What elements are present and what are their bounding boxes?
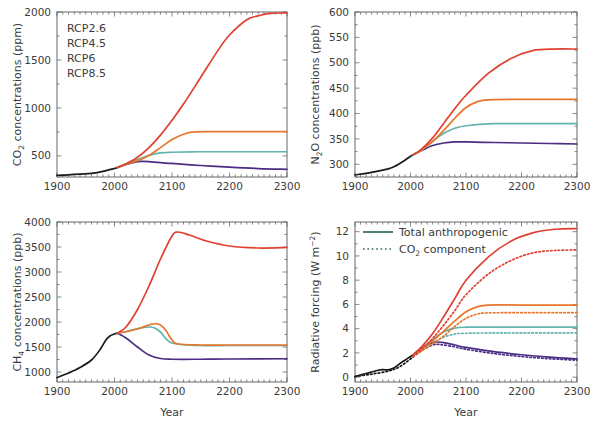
- series-line: [413, 124, 577, 155]
- x-tick-label: 1900: [44, 385, 71, 397]
- x-tick-label: 2100: [159, 180, 186, 192]
- y-tick-label: 600: [329, 6, 349, 18]
- legend-item-rcp6: RCP6: [67, 52, 95, 65]
- y-tick-label: 4: [342, 322, 349, 334]
- y-tick-label: 350: [329, 133, 349, 145]
- x-tick-label: 1900: [44, 180, 71, 192]
- series-line: [117, 327, 287, 346]
- series-line: [355, 355, 413, 377]
- y-tick-label: 450: [329, 82, 349, 94]
- x-tick-label: 2300: [274, 180, 301, 192]
- x-axis-label-rf: Year: [453, 406, 478, 419]
- y-tick-label: 6: [342, 298, 349, 310]
- rcp-scenarios-figure: 19002000210022002300500100015002000CO2 c…: [0, 0, 595, 423]
- series-line: [117, 161, 287, 169]
- series-line: [355, 155, 413, 175]
- x-tick-label: 2200: [508, 385, 535, 397]
- x-tick-label: 1900: [342, 385, 369, 397]
- y-axis-label-rf: Radiative forcing (W m−2): [308, 231, 322, 372]
- series-line: [117, 324, 287, 345]
- x-tick-label: 2200: [508, 180, 535, 192]
- y-tick-label: 0: [342, 371, 349, 383]
- x-tick-label: 2100: [453, 180, 480, 192]
- y-tick-label: 4000: [24, 216, 51, 228]
- series-line: [413, 99, 577, 154]
- series-group-n2o: [355, 49, 577, 175]
- x-tick-label: 2100: [453, 385, 480, 397]
- y-tick-label: 2000: [24, 316, 51, 328]
- y-tick-label: 300: [329, 158, 349, 170]
- legend-item-rcp4-5: RCP4.5: [67, 37, 106, 50]
- panel-co2: 19002000210022002300500100015002000CO2 c…: [11, 6, 300, 192]
- y-tick-label: 1500: [24, 54, 51, 66]
- y-tick-label: 2000: [24, 6, 51, 18]
- series-line: [413, 49, 577, 155]
- legend-label-co2-component: CO2 component: [399, 243, 487, 258]
- ticks-ch4: [57, 222, 287, 382]
- x-tick-label: 2300: [274, 385, 301, 397]
- legend-forcing: Total anthropogenicCO2 component: [363, 226, 508, 258]
- y-tick-label: 2500: [24, 291, 51, 303]
- series-line: [413, 142, 577, 155]
- y-tick-label: 1000: [24, 102, 51, 114]
- x-tick-label: 2000: [101, 180, 128, 192]
- plot-frame-ch4: [57, 222, 287, 382]
- y-axis-label-ch4: CH4 concentrations (ppb): [11, 232, 26, 371]
- legend-scenarios: RCP2.6RCP4.5RCP6RCP8.5: [67, 22, 106, 80]
- y-axis-label-n2o: N2O concentrations (ppb): [309, 24, 324, 164]
- y-tick-label: 1000: [24, 366, 51, 378]
- panel-ch4: 1900200021002200230010001500200025003000…: [11, 216, 300, 419]
- x-tick-label: 2200: [216, 180, 243, 192]
- legend-item-rcp8-5: RCP8.5: [67, 67, 106, 80]
- x-tick-label: 2300: [564, 180, 591, 192]
- legend-item-rcp2-6: RCP2.6: [67, 22, 106, 35]
- y-tick-label: 2: [342, 347, 349, 359]
- legend-label-total-anthropogenic: Total anthropogenic: [398, 226, 508, 239]
- figure-canvas: 19002000210022002300500100015002000CO2 c…: [0, 0, 595, 423]
- y-tick-label: 3500: [24, 241, 51, 253]
- y-tick-label: 1500: [24, 341, 51, 353]
- series-line: [413, 313, 577, 357]
- y-axis-label-co2: CO2 concentrations (ppm): [11, 23, 26, 166]
- series-line: [117, 13, 287, 168]
- y-tick-label: 10: [336, 250, 349, 262]
- x-axis-label-ch4: Year: [159, 406, 184, 419]
- x-tick-label: 2300: [564, 385, 591, 397]
- x-tick-label: 2000: [397, 385, 424, 397]
- x-tick-label: 2100: [159, 385, 186, 397]
- series-group-ch4: [57, 232, 287, 378]
- x-tick-label: 2000: [101, 385, 128, 397]
- y-tick-label: 500: [329, 56, 349, 68]
- y-tick-label: 3000: [24, 266, 51, 278]
- y-tick-label: 12: [336, 225, 349, 237]
- series-line: [117, 232, 287, 333]
- series-line: [57, 168, 117, 176]
- x-tick-label: 2000: [397, 180, 424, 192]
- x-tick-label: 2200: [216, 385, 243, 397]
- y-tick-label: 400: [329, 107, 349, 119]
- series-line: [57, 333, 117, 377]
- x-tick-label: 1900: [342, 180, 369, 192]
- y-tick-label: 500: [31, 149, 51, 161]
- panel-n2o: 1900200021002200230030035040045050055060…: [309, 6, 590, 192]
- y-tick-label: 8: [342, 274, 349, 286]
- y-tick-label: 550: [329, 31, 349, 43]
